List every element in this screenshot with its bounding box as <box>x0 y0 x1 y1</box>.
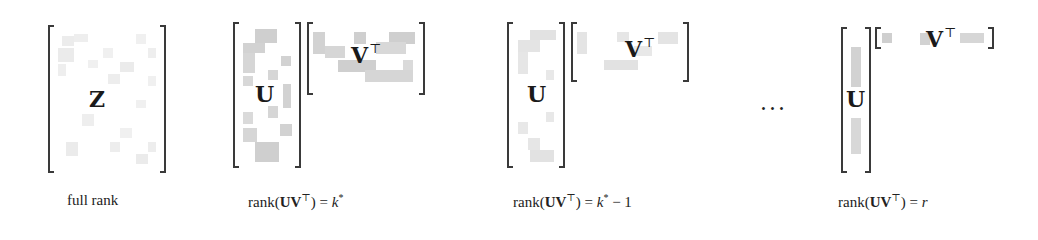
matrix-z-left-bracket <box>48 25 54 173</box>
matrix-u-left-bracket <box>233 22 239 168</box>
caption-rank-r: rank(UV⊤) = r <box>838 192 928 211</box>
matrix-u-right-bracket <box>559 22 565 168</box>
matrix-z-right-bracket <box>160 25 166 173</box>
caption-rank-k-star-minus-1: rank(UV⊤) = k* − 1 <box>513 192 632 211</box>
caption-rank-k-star: rank(UV⊤) = k* <box>248 192 343 211</box>
matrix-vt-symbol: V⊤ <box>625 38 655 60</box>
matrix-z-symbol: Z <box>89 88 105 110</box>
matrix-u-right-bracket <box>295 22 301 168</box>
matrix-u-symbol: U <box>527 83 546 105</box>
transpose-superscript: ⊤ <box>369 41 381 56</box>
caption-full-rank: full rank <box>67 192 118 209</box>
matrix-vt-symbol: V⊤ <box>351 44 381 66</box>
matrix-u-right-bracket <box>865 27 871 173</box>
matrix-u-left-bracket <box>507 22 513 168</box>
matrix-vt-right-bracket <box>419 22 425 95</box>
matrix-vt-right-bracket <box>988 27 994 49</box>
matrix-u-symbol: U <box>255 83 274 105</box>
matrix-vt-symbol: V⊤ <box>926 28 956 50</box>
matrix-vt-left-bracket <box>875 27 881 49</box>
matrix-vt-right-bracket <box>683 22 689 82</box>
transpose-superscript: ⊤ <box>944 25 956 40</box>
ellipsis: ··· <box>760 96 787 121</box>
matrix-u-symbol: U <box>846 88 865 110</box>
transpose-superscript: ⊤ <box>643 35 655 50</box>
